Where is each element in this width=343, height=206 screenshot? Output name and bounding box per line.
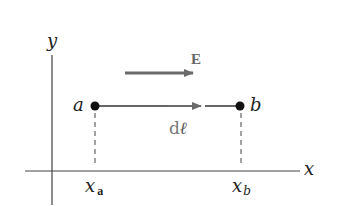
xb-label: xb xyxy=(232,175,251,198)
point-a xyxy=(91,102,100,111)
point-b xyxy=(236,102,245,111)
point-b-label: b xyxy=(250,94,262,115)
y-axis-label: y xyxy=(46,30,58,51)
xa-label: xa xyxy=(85,175,103,198)
point-a-label: a xyxy=(73,94,84,115)
x-axis-label: x xyxy=(304,158,314,179)
diagram-canvas: y x E dℓ a b xa xb xyxy=(0,0,343,206)
field-e-label: E xyxy=(191,51,201,67)
dl-label: dℓ xyxy=(169,118,187,138)
